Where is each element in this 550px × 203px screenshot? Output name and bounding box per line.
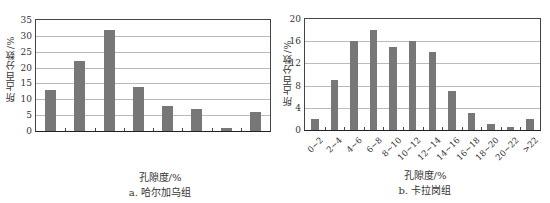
x-tick-mark	[442, 127, 443, 130]
y-tick-label: 20	[283, 14, 301, 24]
bar	[331, 80, 338, 130]
x-tick-mark	[481, 127, 482, 130]
y-tick-label: 12	[283, 58, 301, 68]
bar	[468, 113, 475, 130]
x-tick-label: >22	[521, 135, 541, 155]
gridline	[305, 108, 540, 109]
x-tick-mark	[364, 127, 365, 130]
x-tick-mark	[501, 127, 502, 130]
bar	[448, 91, 455, 130]
gridline	[305, 63, 540, 64]
bar	[350, 41, 357, 130]
bar	[487, 124, 494, 130]
bar	[370, 30, 377, 130]
chart-b-kalagang: 所占百分数/% 孔隙度/% b. 卡拉岗组 0481216200~22~44~6…	[0, 0, 550, 203]
x-tick-mark	[462, 127, 463, 130]
gridline	[305, 86, 540, 87]
chart-caption: b. 卡拉岗组	[355, 182, 495, 197]
x-tick-label: 2~4	[325, 135, 345, 155]
y-axis-title: 所占百分数/%	[281, 40, 295, 106]
gridline	[305, 41, 540, 42]
x-tick-mark	[403, 127, 404, 130]
y-tick-label: 4	[283, 103, 301, 113]
x-tick-mark	[344, 127, 345, 130]
x-tick-label: 0~2	[305, 135, 325, 155]
x-tick-mark	[520, 127, 521, 130]
bar	[507, 127, 514, 130]
bar	[389, 47, 396, 130]
x-tick-label: 4~6	[344, 135, 364, 155]
y-tick-label: 8	[283, 81, 301, 91]
y-tick-label: 16	[283, 36, 301, 46]
bar	[311, 119, 318, 130]
x-tick-mark	[423, 127, 424, 130]
x-tick-mark	[325, 127, 326, 130]
bar	[409, 41, 416, 130]
bar	[526, 119, 533, 130]
plot-area	[304, 18, 541, 131]
y-tick-label: 0	[283, 125, 301, 135]
x-tick-mark	[383, 127, 384, 130]
bar	[429, 52, 436, 130]
x-axis-title: 孔隙度/%	[365, 167, 485, 182]
